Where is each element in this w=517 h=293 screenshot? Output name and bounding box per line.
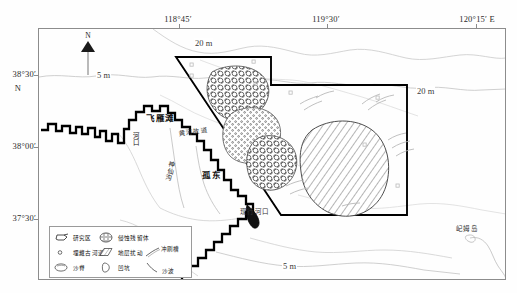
depth-label-20m-north: 20 m <box>194 38 213 48</box>
place-label-feiyantan: 飞雁滩 <box>146 111 175 123</box>
study-area-icon <box>53 231 72 244</box>
legend-label-scour-trough: 冲刷槽 <box>161 245 180 253</box>
north-arrow-head <box>81 41 95 52</box>
axis-top-label-2: 119°30′ <box>312 14 340 24</box>
legend-label-pit: 凹坑 <box>118 264 130 272</box>
place-label-hekou: 河口 <box>130 132 140 146</box>
legend-label-sand-ridge: 沙脊 <box>73 264 85 272</box>
depth-label-5m-south: 5 m <box>282 261 297 271</box>
buried-paleochannel-icon <box>53 246 72 259</box>
legend-label-erosion-remnant: 侵蚀残留体 <box>118 234 149 242</box>
depth-label-5m-north: 5 m <box>96 70 111 80</box>
legend-item-sand-ridge: 沙脊 <box>53 261 98 274</box>
legend-item-erosion-remnant: 侵蚀残留体 <box>98 231 146 244</box>
sand-ridge-icon <box>53 261 72 274</box>
legend-label-study-area: 研究区 <box>73 234 92 242</box>
legend-item-sand-wave: 沙波 <box>144 261 174 274</box>
legend-item-study-area: 研究区 <box>53 231 98 244</box>
pit-icon <box>98 261 117 274</box>
legend-row-1: 研究区 侵蚀残留体 <box>53 230 189 245</box>
sand-wave-icon <box>144 261 163 274</box>
axis-left-label-3: 37°30′ <box>0 213 36 223</box>
place-label-gudong: 孤东 <box>202 168 221 180</box>
legend-label-sand-wave: 沙波 <box>162 267 174 275</box>
legend-item-strata-disturbance: 地层扰动 <box>98 246 144 259</box>
erosion-remnant-icon <box>98 231 117 244</box>
legend-item-buried-paleochannel: 埋藏古河道 <box>53 246 98 259</box>
place-label-qimu-island: 屺姆岛 <box>456 223 478 233</box>
legend-box: 研究区 侵蚀残留体 埋藏古河道 地层扰动 <box>49 226 192 278</box>
axis-left-label-1: 38°30′ <box>0 69 36 79</box>
depth-label-20m-east: 20 m <box>416 86 435 96</box>
legend-item-scour-trough: 冲刷槽 <box>144 246 180 259</box>
legend-row-2: 埋藏古河道 地层扰动 冲刷槽 <box>53 245 189 260</box>
place-label-xianxing-hekou: 现行河口 <box>240 206 270 216</box>
axis-top-label-3: 120°15′ E <box>459 14 495 24</box>
north-arrow: N <box>78 31 98 75</box>
north-arrow-stem <box>88 51 89 75</box>
legend-item-pit: 凹坑 <box>98 261 144 274</box>
axis-left-label-n: N <box>0 83 36 93</box>
legend-label-strata-disturbance: 地层扰动 <box>118 249 143 257</box>
map-canvas: N 118°45′ 119°30′ 120°15′ E 38°30′ N 38°… <box>0 0 517 293</box>
axis-top-label-1: 118°45′ <box>164 14 192 24</box>
legend-row-3: 沙脊 凹坑 沙波 <box>53 260 189 275</box>
north-arrow-label: N <box>85 31 90 40</box>
strata-disturbance-icon <box>98 246 117 259</box>
axis-left-label-2: 38°00′ <box>0 141 36 151</box>
